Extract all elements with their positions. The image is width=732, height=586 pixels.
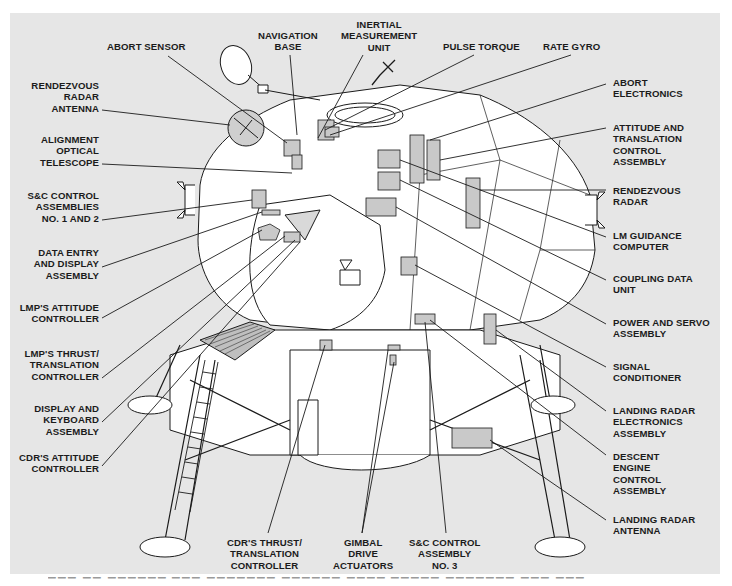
label-display-keyboard-assembly: DISPLAY AND KEYBOARD ASSEMBLY [34,403,99,437]
label-inertial-measurement-unit: INERTIAL MEASUREMENT UNIT [341,19,417,53]
label-data-entry-display-assembly: DATA ENTRY AND DISPLAY ASSEMBLY [34,247,99,281]
label-lmp-thrust-translation-controller: LMP'S THRUST/ TRANSLATION CONTROLLER [25,348,99,382]
footpad [535,537,585,557]
label-gimbal-drive-actuators: GIMBAL DRIVE ACTUATORS [333,537,393,571]
label-landing-radar-antenna: LANDING RADAR ANTENNA [613,514,695,537]
label-power-servo-assembly: POWER AND SERVO ASSEMBLY [613,317,710,340]
label-sc-control-assembly-3: S&C CONTROL ASSEMBLY NO. 3 [409,537,480,571]
label-descent-engine-control-assembly: DESCENT ENGINE CONTROL ASSEMBLY [613,451,666,497]
footpad [531,396,575,414]
label-coupling-data-unit: COUPLING DATA UNIT [613,273,693,296]
label-pulse-torque: PULSE TORQUE [443,41,520,52]
label-cdr-thrust-translation-controller: CDR'S THRUST/ TRANSLATION CONTROLLER [227,537,302,571]
label-landing-radar-electronics-assembly: LANDING RADAR ELECTRONICS ASSEMBLY [613,405,695,439]
label-lmp-attitude-controller: LMP'S ATTITUDE CONTROLLER [20,302,99,325]
label-sc-control-assemblies-1-2: S&C CONTROL ASSEMBLIES NO. 1 AND 2 [28,190,99,224]
label-lm-guidance-computer: LM GUIDANCE COMPUTER [613,230,682,253]
cropped-caption-strip: ▔▔▔ ▔▔ ▔▔▔▔▔▔ ▔▔▔ ▔▔▔▔▔▔▔ ▔▔▔▔▔▔ ▔▔▔▔ ▔▔… [48,577,586,586]
label-cdr-attitude-controller: CDR'S ATTITUDE CONTROLLER [19,452,99,475]
label-rendezvous-radar: RENDEZVOUS RADAR [613,185,681,208]
label-attitude-translation-control-assembly: ATTITUDE AND TRANSLATION CONTROL ASSEMBL… [613,122,684,168]
label-alignment-optical-telescope: ALIGNMENT OPTICAL TELESCOPE [40,134,99,168]
label-rendezvous-radar-antenna: RENDEZVOUS RADAR ANTENNA [31,80,99,114]
label-signal-conditioner: SIGNAL CONDITIONER [613,361,681,384]
footpad [140,537,190,557]
label-rate-gyro: RATE GYRO [543,41,600,52]
steerable-antenna [215,41,257,89]
label-navigation-base: NAVIGATION BASE [258,30,318,53]
label-abort-electronics: ABORT ELECTRONICS [613,77,683,100]
label-abort-sensor: ABORT SENSOR [107,41,186,52]
